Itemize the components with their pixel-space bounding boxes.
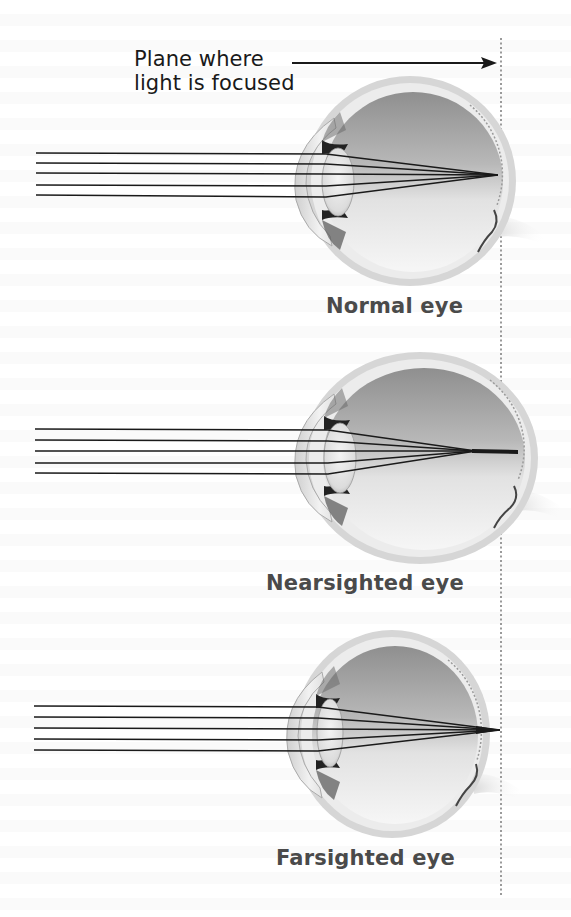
focal-plane-callout: Plane where light is focused (134, 47, 295, 95)
farsighted-eye-illustration (34, 630, 526, 838)
normal-eye-label: Normal eye (326, 294, 463, 318)
nearsighted-eye-illustration (35, 352, 568, 564)
callout-line-1: Plane where (134, 47, 295, 71)
callout-line-2: light is focused (134, 71, 295, 95)
nearsighted-eye-label: Nearsighted eye (266, 571, 464, 595)
normal-eye-illustration (36, 76, 548, 286)
eye-focus-diagram (0, 0, 571, 917)
right-arrow-icon (292, 57, 497, 69)
farsighted-eye-label: Farsighted eye (276, 846, 455, 870)
